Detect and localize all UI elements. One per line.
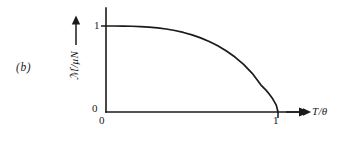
y-axis-label-group: ℳ/μN (58, 18, 88, 104)
figure-panel-b: (b) ℳ/μN T/θ 1 0 0 1 (0, 0, 349, 149)
x-tick-label-1: 1 (273, 115, 279, 126)
magnetization-curve (106, 26, 278, 112)
x-axis-label: T/θ (312, 106, 327, 117)
x-tick-label-0: 0 (99, 115, 105, 126)
y-tick-label-0: 0 (92, 103, 98, 114)
y-tick-label-1: 1 (94, 20, 100, 31)
plot-canvas (0, 0, 349, 149)
y-axis-label: ℳ/μN (69, 30, 80, 102)
panel-label: (b) (16, 62, 31, 74)
x-label-arrow-right-icon (286, 108, 311, 116)
